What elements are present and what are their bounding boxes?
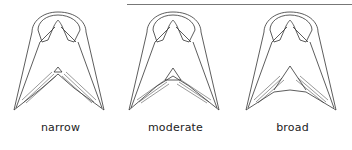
- label-moderate: moderate: [117, 121, 234, 134]
- jaw-outline-narrow-icon: [2, 0, 119, 120]
- diagram-narrow: narrow: [2, 0, 119, 150]
- jaw-outline-broad-icon: [234, 0, 351, 120]
- diagram-broad: broad: [234, 0, 351, 150]
- jaw-outline-moderate-icon: [117, 0, 234, 120]
- diagram-moderate: moderate: [117, 0, 234, 150]
- label-narrow: narrow: [2, 121, 119, 134]
- label-broad: broad: [234, 121, 351, 134]
